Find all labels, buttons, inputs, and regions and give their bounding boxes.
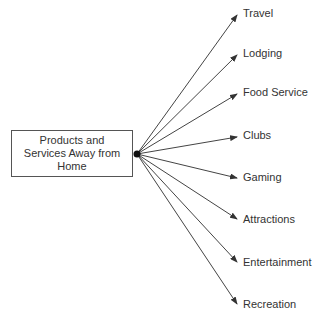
leaf-lodging: Lodging [243, 47, 282, 60]
leaf-recreation: Recreation [243, 298, 296, 311]
hierarchy-diagram: Products and Services Away from Home Tra… [0, 0, 322, 327]
leaf-food-service: Food Service [243, 86, 308, 99]
root-node-box: Products and Services Away from Home [11, 130, 133, 177]
leaf-entertainment: Entertainment [243, 256, 311, 269]
leaf-travel: Travel [243, 7, 273, 20]
root-label-line2: Services Away from [24, 147, 120, 160]
arrow-edge [137, 154, 237, 262]
root-label-line1: Products and [24, 134, 120, 147]
hub-dot [134, 151, 141, 158]
arrow-edge [137, 15, 237, 154]
leaf-clubs: Clubs [243, 129, 271, 142]
leaf-attractions: Attractions [243, 213, 295, 226]
arrow-edge [137, 154, 237, 219]
leaf-gaming: Gaming [243, 171, 282, 184]
arrow-edge [137, 154, 237, 178]
root-label-line3: Home [24, 160, 120, 173]
arrow-edge [137, 154, 237, 304]
